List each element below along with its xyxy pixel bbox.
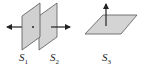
s1-center-dot: [32, 26, 34, 28]
label-s2: S2: [50, 52, 59, 65]
surface-s1: [22, 3, 40, 50]
surface-s3: [85, 15, 137, 34]
label-s3: S3: [102, 52, 111, 65]
label-s1: S1: [19, 52, 28, 65]
